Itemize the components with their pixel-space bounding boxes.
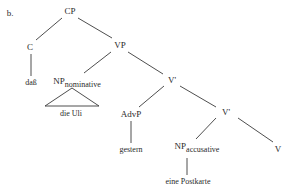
word-gestern: gestern <box>119 145 142 155</box>
word-dass: daß <box>25 78 37 88</box>
edge-vbar-advp <box>139 86 164 107</box>
triangle-np-nominative <box>45 88 99 106</box>
np-label: NP <box>175 141 187 151</box>
node-vp: VP <box>114 40 126 50</box>
np-case: accusative <box>186 145 219 154</box>
node-cp: CP <box>64 6 75 16</box>
edge-vbar-vbar <box>180 86 216 107</box>
edge-vbar2-v <box>238 118 273 142</box>
node-vbar-2: V' <box>222 107 230 117</box>
edge-cp-vp <box>78 18 112 38</box>
edge-vbar2-np <box>196 118 216 139</box>
np-label: NP <box>53 76 65 86</box>
node-v: V <box>275 144 282 154</box>
tree-edges <box>0 0 286 192</box>
word-eine-postkarte: eine Postkarte <box>165 177 210 187</box>
edge-vp-np <box>84 52 111 73</box>
np-case: nominative <box>65 80 101 89</box>
edge-vp-vbar <box>128 52 163 74</box>
node-vbar-1: V' <box>168 75 176 85</box>
node-advp: AdvP <box>121 109 142 119</box>
node-np-accusative: NPaccusative <box>175 141 220 155</box>
word-die-uli: die Uli <box>60 109 82 119</box>
edge-cp-c <box>36 18 62 40</box>
node-np-nominative: NPnominative <box>53 76 101 90</box>
node-c: C <box>27 42 33 52</box>
example-label: b. <box>7 8 14 18</box>
